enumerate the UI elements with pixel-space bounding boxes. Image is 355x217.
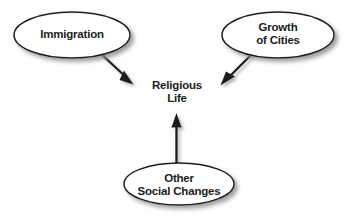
node-ellipse-immigration[interactable] <box>14 12 130 58</box>
arrow-head <box>171 113 181 128</box>
arrow-immigration-to-religious-life <box>100 53 134 85</box>
diagram-canvas <box>0 0 355 217</box>
node-ellipse-other-social-changes[interactable] <box>124 163 234 205</box>
node-ellipse-growth-of-cities[interactable] <box>222 12 334 58</box>
concept-map-diagram: Immigration Growth of Cities Other Socia… <box>0 0 355 217</box>
arrow-growth-to-religious-life <box>221 54 253 86</box>
arrow-other-to-religious-life <box>171 113 181 164</box>
